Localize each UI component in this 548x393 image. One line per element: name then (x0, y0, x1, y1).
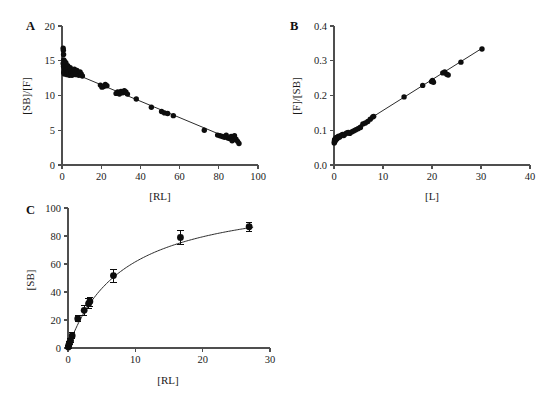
panel-c-fit-curve (68, 227, 253, 348)
x-tick-label: 30 (476, 171, 487, 182)
data-point (229, 138, 234, 143)
y-tick-label: 10 (45, 90, 56, 101)
y-tick-label: 60 (51, 259, 62, 270)
y-tick-label: 0.1 (314, 125, 327, 136)
x-tick-label: 40 (525, 171, 536, 182)
x-tick-label: 30 (265, 354, 276, 365)
panel-c-ticks: 0102030020406080100 (45, 203, 275, 365)
y-tick-label: 20 (51, 315, 62, 326)
panel-b-data-points (332, 46, 485, 146)
y-tick-label: 0.2 (314, 90, 327, 101)
panel-c-plot: C 0102030020406080100 [RL] [SB] (8, 196, 293, 392)
y-tick-label: 100 (45, 203, 61, 214)
y-tick-label: 15 (45, 55, 56, 66)
panel-b-ticks: 0102030400.00.10.20.30.4 (314, 21, 535, 182)
data-point (246, 223, 253, 230)
panel-b-plot: B 0102030400.00.10.20.30.4 [L] [F]/[SB] (276, 10, 542, 206)
x-tick-label: 10 (130, 354, 141, 365)
panel-a-letter-group: A (26, 19, 35, 33)
panel-b-axes (334, 26, 530, 165)
panel-a-ticks: 02040608010005101520 (45, 21, 266, 182)
data-point (401, 94, 406, 99)
x-tick-label: 20 (197, 354, 208, 365)
x-tick-label: 0 (331, 171, 336, 182)
data-point (74, 315, 81, 322)
data-point (420, 83, 425, 88)
panel-c-data-points (65, 222, 253, 350)
data-point (479, 46, 484, 51)
data-point (104, 83, 109, 88)
data-point (86, 298, 93, 305)
y-tick-label: 0 (56, 343, 61, 354)
panel-a-axes (62, 26, 258, 165)
data-point (125, 91, 130, 96)
panel-letter-a: A (26, 19, 35, 33)
data-point (177, 234, 184, 241)
panel-c-ylabel: [SB] (24, 270, 36, 291)
panel-b-ylabel: [F]/[SB] (290, 77, 302, 114)
x-tick-label: 20 (96, 171, 107, 182)
panel-b: B 0102030400.00.10.20.30.4 [L] [F]/[SB] (276, 10, 542, 206)
saturation-curve (68, 227, 253, 348)
data-point (149, 105, 154, 110)
data-point (61, 52, 66, 57)
panel-a-ylabel: [SB]/[F] (20, 77, 32, 114)
panel-a-plot: A 02040608010005101520 [RL] [SB]/[F] (8, 10, 270, 206)
panel-c-letter-group: C (26, 203, 35, 217)
data-point (371, 114, 376, 119)
panel-letter-b: B (290, 19, 298, 33)
x-tick-label: 60 (174, 171, 185, 182)
x-tick-label: 100 (250, 171, 266, 182)
data-point (236, 141, 241, 146)
panel-letter-c: C (26, 203, 35, 217)
y-tick-label: 20 (45, 21, 56, 32)
data-point (431, 80, 436, 85)
panel-a-data-points (60, 46, 241, 147)
x-tick-label: 10 (378, 171, 389, 182)
x-tick-label: 80 (214, 171, 225, 182)
figure-root: A 02040608010005101520 [RL] [SB]/[F] B 0… (0, 0, 548, 393)
data-point (110, 272, 117, 279)
x-tick-label: 20 (427, 171, 438, 182)
data-point (445, 72, 450, 77)
panel-b-xlabel: [L] (425, 190, 439, 202)
data-point (134, 96, 139, 101)
panel-c-xlabel: [RL] (157, 374, 178, 386)
y-tick-label: 40 (51, 287, 62, 298)
y-tick-label: 0.3 (314, 55, 327, 66)
data-point (171, 113, 176, 118)
data-point (202, 128, 207, 133)
y-tick-label: 0.4 (314, 21, 328, 32)
data-point (69, 332, 76, 339)
panel-a: A 02040608010005101520 [RL] [SB]/[F] (8, 10, 270, 206)
data-point (81, 307, 88, 314)
panel-c: C 0102030020406080100 [RL] [SB] (8, 196, 293, 392)
y-tick-label: 0 (50, 160, 55, 171)
y-tick-label: 5 (50, 125, 55, 136)
y-tick-label: 0.0 (314, 160, 327, 171)
data-point (80, 73, 85, 78)
x-tick-label: 40 (135, 171, 146, 182)
panel-b-letter-group: B (290, 19, 298, 33)
y-tick-label: 80 (51, 231, 62, 242)
x-tick-label: 0 (59, 171, 64, 182)
data-point (458, 59, 463, 64)
data-point (165, 111, 170, 116)
x-tick-label: 0 (65, 354, 70, 365)
